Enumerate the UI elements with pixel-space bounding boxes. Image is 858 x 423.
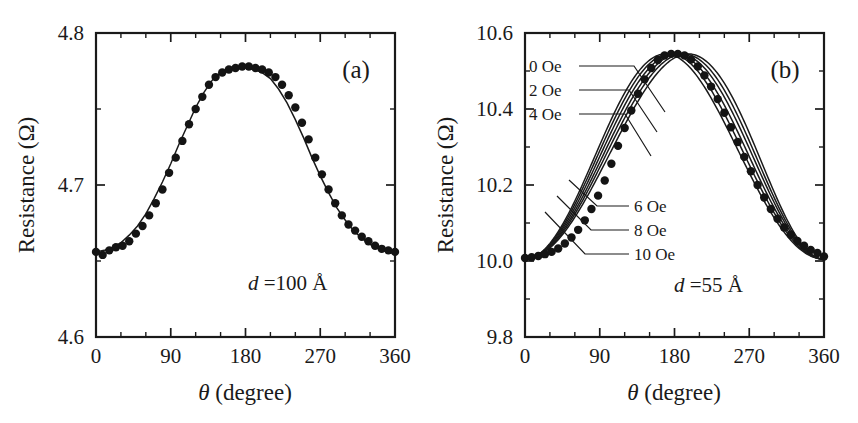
data-point bbox=[587, 205, 595, 213]
x-axis-unit: (degree) bbox=[209, 380, 291, 405]
thickness-annotation: d =55 Å bbox=[674, 273, 744, 297]
data-point bbox=[152, 199, 160, 207]
data-point bbox=[713, 95, 721, 103]
y-tick-label: 9.8 bbox=[487, 325, 513, 349]
field-curve-6-oe bbox=[525, 54, 824, 259]
x-axis-label: θ (degree) bbox=[627, 380, 721, 405]
data-point bbox=[391, 248, 399, 256]
data-point bbox=[338, 211, 346, 219]
panel-tag: (a) bbox=[342, 56, 370, 84]
data-point bbox=[787, 231, 795, 239]
legend-label: 2 Oe bbox=[529, 81, 562, 100]
legend-label: 0 Oe bbox=[529, 57, 562, 76]
data-point bbox=[344, 220, 352, 228]
data-point bbox=[620, 124, 628, 132]
x-tick-label: 360 bbox=[379, 344, 411, 368]
data-point bbox=[278, 80, 286, 88]
data-point bbox=[298, 118, 306, 126]
data-point bbox=[284, 91, 292, 99]
panel-b-svg: 0901802703609.810.010.210.410.6 0 Oe2 Oe… bbox=[429, 0, 858, 423]
panel-tag: (b) bbox=[770, 56, 799, 84]
data-point bbox=[158, 185, 166, 193]
x-tick-label: 90 bbox=[589, 344, 610, 368]
x-axis-unit: (degree) bbox=[638, 380, 720, 405]
data-point bbox=[601, 176, 609, 184]
data-point bbox=[700, 71, 708, 79]
data-point bbox=[707, 82, 715, 90]
data-point bbox=[727, 123, 735, 131]
data-point bbox=[554, 244, 562, 252]
data-point bbox=[687, 55, 695, 63]
data-point bbox=[614, 142, 622, 150]
data-point bbox=[747, 167, 755, 175]
y-tick-label: 10.2 bbox=[476, 173, 513, 197]
y-tick-label: 4.7 bbox=[58, 173, 84, 197]
x-tick-label: 180 bbox=[230, 344, 262, 368]
y-axis-label: Resistance (Ω) bbox=[433, 117, 458, 254]
y-tick-label: 4.8 bbox=[58, 21, 84, 45]
field-curve-10-oe bbox=[525, 54, 824, 259]
y-axis-label: Resistance (Ω) bbox=[14, 117, 39, 254]
data-point bbox=[773, 215, 781, 223]
data-point bbox=[291, 103, 299, 111]
d-symbol: d bbox=[248, 271, 259, 295]
data-point bbox=[331, 199, 339, 207]
theta-symbol: θ bbox=[198, 380, 209, 405]
data-point bbox=[594, 191, 602, 199]
panel-b-legend: 0 Oe2 Oe4 Oe6 Oe8 Oe10 Oe bbox=[529, 57, 675, 264]
data-point bbox=[574, 226, 582, 234]
y-tick-label: 10.4 bbox=[476, 97, 513, 121]
data-point bbox=[351, 226, 359, 234]
data-point bbox=[125, 237, 133, 245]
data-point bbox=[185, 120, 193, 128]
data-point bbox=[165, 169, 173, 177]
legend-label: 10 Oe bbox=[634, 245, 675, 264]
legend-leader-line bbox=[579, 114, 651, 156]
x-tick-label: 270 bbox=[734, 344, 766, 368]
panel-b: 0901802703609.810.010.210.410.6 0 Oe2 Oe… bbox=[429, 0, 858, 423]
data-point bbox=[780, 223, 788, 231]
theta-symbol: θ bbox=[627, 380, 638, 405]
x-axis-label: θ (degree) bbox=[198, 380, 292, 405]
legend-label: 8 Oe bbox=[634, 221, 667, 240]
figure-container: 0901802703604.64.74.8 (a)d =100 Åθ (degr… bbox=[0, 0, 858, 423]
x-tick-label: 270 bbox=[305, 344, 337, 368]
data-point bbox=[304, 135, 312, 143]
data-point bbox=[198, 93, 206, 101]
field-curve-8-oe bbox=[525, 54, 824, 259]
data-point bbox=[694, 62, 702, 70]
x-tick-label: 180 bbox=[659, 344, 691, 368]
data-point bbox=[172, 153, 180, 161]
data-point bbox=[132, 229, 140, 237]
panel-a-svg: 0901802703604.64.74.8 (a)d =100 Åθ (degr… bbox=[0, 0, 429, 423]
data-point bbox=[647, 64, 655, 72]
data-point bbox=[561, 239, 569, 247]
data-point bbox=[138, 222, 146, 230]
x-tick-label: 0 bbox=[91, 344, 102, 368]
data-point bbox=[820, 252, 828, 260]
field-curve-4-oe bbox=[525, 54, 824, 259]
panel-a: 0901802703604.64.74.8 (a)d =100 Åθ (degr… bbox=[0, 0, 429, 423]
data-point bbox=[733, 138, 741, 146]
data-point bbox=[178, 137, 186, 145]
legend-label: 6 Oe bbox=[634, 197, 667, 216]
data-point bbox=[271, 73, 279, 81]
field-curve-0-oe bbox=[525, 54, 824, 259]
data-point bbox=[145, 211, 153, 219]
panel-b-curves bbox=[525, 54, 824, 259]
data-point bbox=[318, 170, 326, 178]
data-point bbox=[627, 106, 635, 114]
y-tick-label: 4.6 bbox=[58, 325, 84, 349]
data-point bbox=[720, 109, 728, 117]
thickness-annotation: d =100 Å bbox=[248, 271, 328, 295]
data-point bbox=[324, 185, 332, 193]
legend-label: 4 Oe bbox=[529, 105, 562, 124]
data-point bbox=[205, 80, 213, 88]
data-point bbox=[607, 160, 615, 168]
x-tick-label: 0 bbox=[520, 344, 531, 368]
d-value: =100 Å bbox=[259, 271, 329, 295]
data-point bbox=[760, 193, 768, 201]
panel-a-datapoints bbox=[92, 62, 399, 259]
d-value: =55 Å bbox=[685, 273, 744, 297]
y-tick-label: 10.6 bbox=[476, 21, 513, 45]
